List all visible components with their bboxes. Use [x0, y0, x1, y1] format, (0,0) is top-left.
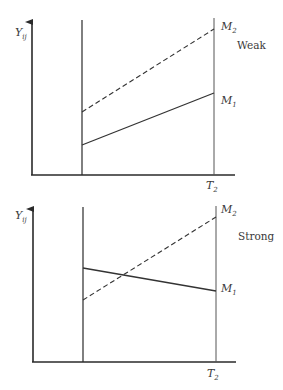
series-m1-label: M1	[220, 94, 237, 109]
series-m2-label: M2	[220, 203, 237, 218]
diagram-canvas: Yij M2 Weak M1 T2 Yij M2 Strong M1 T2	[0, 0, 283, 390]
series-m2-label: M2	[220, 20, 237, 35]
panel-title: Weak	[237, 39, 266, 51]
y-axis-label: Yij	[15, 209, 28, 224]
panel-weak: Yij M2 Weak M1 T2	[15, 18, 266, 194]
series-m1-label: M1	[220, 282, 237, 297]
series-m1-line	[82, 93, 214, 145]
panel-strong: Yij M2 Strong M1 T2	[15, 203, 275, 382]
series-m1-line	[83, 268, 216, 291]
y-axis-label: Yij	[15, 26, 28, 41]
x-tick-t2-label: T2	[207, 367, 219, 382]
panel-title: Strong	[238, 230, 275, 242]
x-tick-t2-label: T2	[206, 179, 218, 194]
series-m2-line	[82, 29, 214, 112]
